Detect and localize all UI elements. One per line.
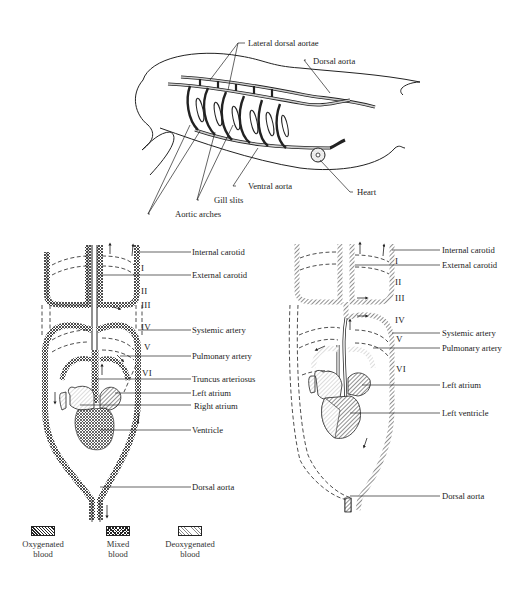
label-pulmonary-artery-right: Pulmonary artery [442, 343, 502, 353]
label-dorsal-aorta-left: Dorsal aorta [192, 482, 234, 492]
arch-numeral-ii-right: II [395, 277, 402, 287]
deoxygenated-swatch-icon [178, 526, 202, 536]
oxygenated-swatch-icon [31, 526, 55, 536]
label-internal-carotid-right: Internal carotid [442, 245, 495, 255]
arch-numeral-vi: VI [142, 368, 152, 378]
arch-numeral-iv: IV [141, 322, 151, 332]
label-external-carotid-left: External carotid [192, 270, 247, 280]
label-aortic-arches: Aortic arches [175, 209, 221, 219]
legend-label-line1: Mixed [78, 539, 158, 549]
legend-label-line1: Oxygenated [3, 539, 83, 549]
left-atrium-shape [348, 373, 370, 396]
legend-label-line2: blood [3, 549, 83, 559]
label-left-atrium-left: Left atrium [192, 388, 231, 398]
left-atrium-shape [100, 387, 121, 410]
label-dorsal-aorta-right: Dorsal aorta [442, 491, 484, 501]
diagram-canvas [0, 0, 513, 594]
legend-item-oxygenated: Oxygenated blood [3, 526, 83, 559]
arch-numeral-i: I [141, 263, 144, 273]
label-truncus-arteriosus: Truncus arteriosus [192, 374, 255, 384]
label-external-carotid-right: External carotid [442, 260, 497, 270]
label-left-atrium-right: Left atrium [442, 380, 481, 390]
arch-numeral-ii: II [141, 286, 148, 296]
arch-numeral-iii: III [141, 300, 151, 310]
legend-item-deoxygenated: Deoxygenated blood [150, 526, 230, 559]
label-gill-slits: Gill slits [214, 195, 243, 205]
right-circulation-diagram [289, 243, 440, 512]
arch-numeral-iv-right: IV [395, 315, 405, 325]
label-dorsal-aorta-embryo: Dorsal aorta [313, 56, 355, 66]
label-systemic-artery-right: Systemic artery [442, 328, 496, 338]
right-atrium-shape [68, 386, 94, 410]
arch-numeral-i-right: I [395, 256, 398, 266]
label-ventral-aorta: Ventral aorta [248, 181, 292, 191]
legend-label-line1: Deoxygenated [150, 539, 230, 549]
arch-numeral-iii-right: III [395, 293, 405, 303]
legend-label-line2: blood [78, 549, 158, 559]
label-heart: Heart [357, 187, 376, 197]
label-systemic-artery-left: Systemic artery [192, 325, 246, 335]
label-internal-carotid-left: Internal carotid [192, 247, 245, 257]
mixed-swatch-icon [106, 526, 130, 536]
embryo-outline [143, 53, 420, 95]
arch-numeral-v-right: V [396, 334, 403, 344]
arch-numeral-v: V [144, 342, 151, 352]
label-ventricle: Ventricle [192, 425, 223, 435]
label-left-ventricle: Left ventricle [442, 408, 489, 418]
label-right-atrium: Right atrium [194, 401, 238, 411]
left-circulation-diagram [42, 244, 191, 522]
legend-item-mixed: Mixed blood [78, 526, 158, 559]
label-pulmonary-artery-left: Pulmonary artery [192, 351, 252, 361]
arch-numeral-vi-right: VI [396, 364, 406, 374]
legend-label-line2: blood [150, 549, 230, 559]
ventricle-shape [75, 408, 114, 450]
label-lateral-dorsal-aortae: Lateral dorsal aortae [248, 38, 319, 48]
